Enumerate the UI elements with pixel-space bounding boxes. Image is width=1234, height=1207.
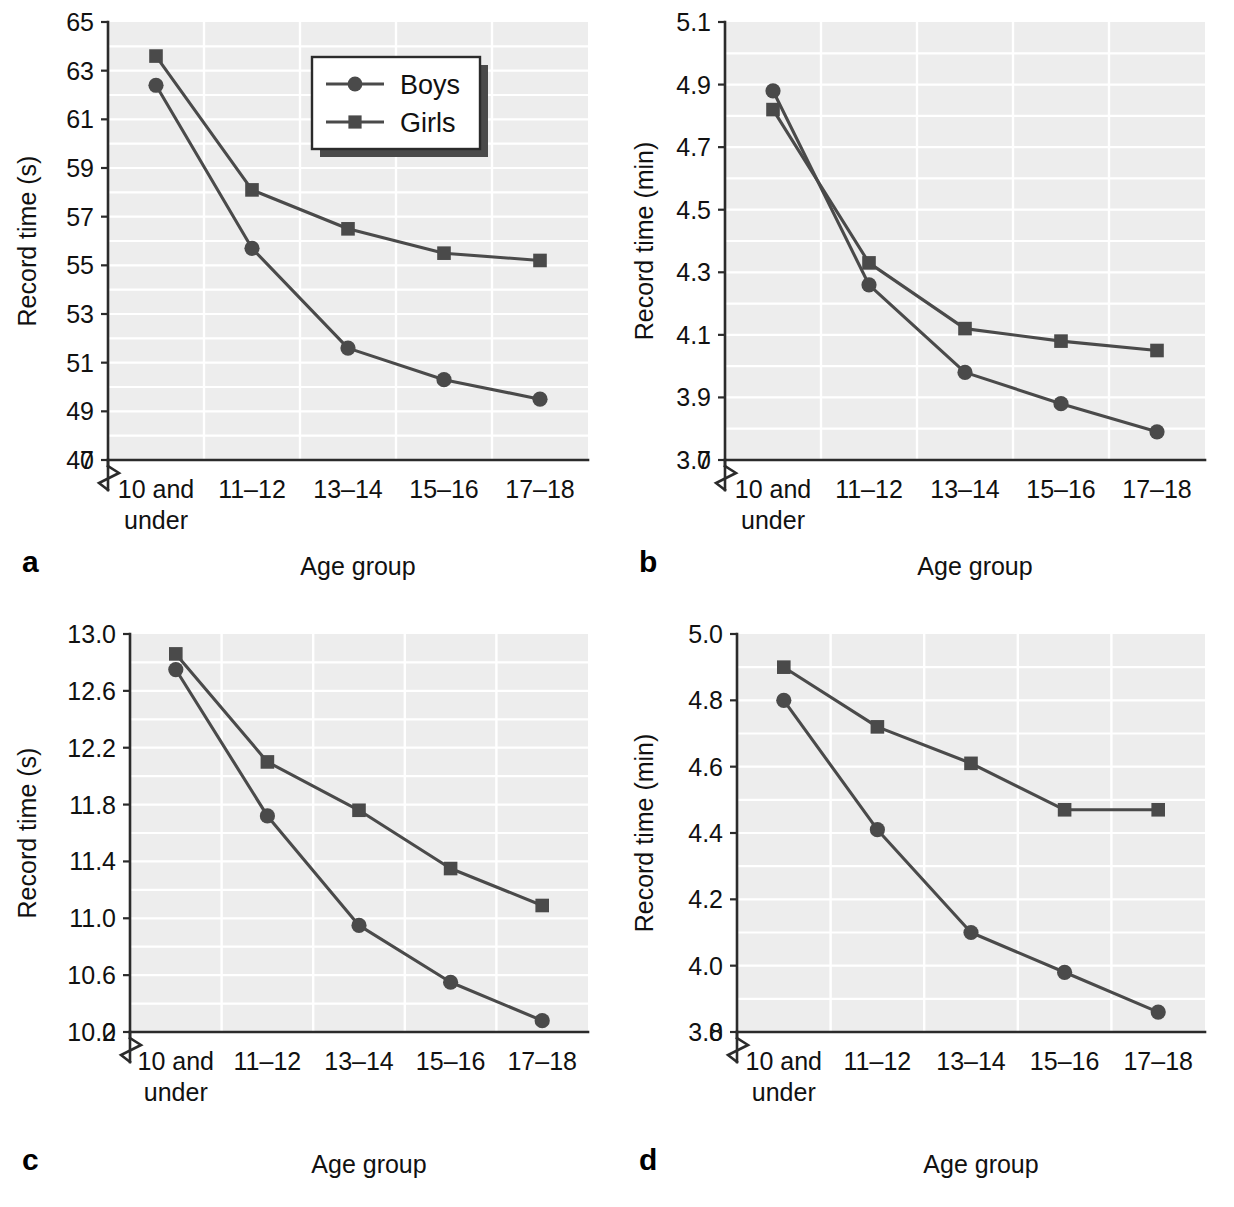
y-origin-label: 0 [102,1018,116,1046]
x-ticks-a: 10 andunder11–1213–1415–1617–18 [118,475,575,534]
data-point-boys [351,918,366,933]
y-tick-label: 4.2 [688,885,723,913]
x-tick-label: 17–18 [1122,475,1192,503]
data-point-boys [870,822,885,837]
data-point-girls [1058,803,1072,817]
data-point-boys [957,365,972,380]
y-tick-label: 13.0 [67,620,116,648]
x-axis-title-a: Age group [300,552,415,580]
x-tick-label: 10 and [138,1047,214,1075]
data-point-girls [444,862,458,876]
x-ticks-d: 10 andunder11–1213–1415–1617–18 [746,1047,1193,1106]
x-tick-label: 17–18 [1123,1047,1193,1075]
x-tick-label: 17–18 [505,475,575,503]
y-tick-label: 10.6 [67,961,116,989]
x-tick-label: 15–16 [416,1047,486,1075]
y-tick-label: 4.8 [688,686,723,714]
x-tick-label: 15–16 [1026,475,1096,503]
data-point-girls [1151,803,1165,817]
data-point-girls [777,660,791,674]
x-tick-label: 13–14 [930,475,1000,503]
y-tick-label: 4.0 [688,952,723,980]
y-tick-label: 4.5 [676,196,711,224]
panel-letter-b: b [639,545,657,578]
y-tick-label: 12.2 [67,734,116,762]
y-ticks-b: 3.73.94.14.34.54.74.95.10 [676,8,725,474]
data-point-girls [535,899,549,913]
x-axis-title-c: Age group [311,1150,426,1178]
panel-letter-a: a [22,545,39,578]
x-tick-label: 13–14 [313,475,383,503]
x-tick-label: under [124,506,188,534]
data-point-boys [532,392,547,407]
data-point-boys [963,925,978,940]
x-tick-label: 11–12 [844,1047,912,1075]
legend-a: BoysGirls [312,57,488,157]
panel-letter-c: c [22,1143,39,1176]
y-tick-label: 5.1 [676,8,711,36]
y-tick-label: 4.6 [688,753,723,781]
y-tick-label: 4.7 [676,133,711,161]
x-tick-label: under [144,1078,208,1106]
y-tick-label: 11.8 [69,791,116,819]
data-point-girls [766,103,780,117]
x-tick-label: 10 and [735,475,811,503]
chart-panel-a: 47495153555759616365010 andunder11–1213–… [0,0,617,603]
y-tick-label: 49 [66,397,94,425]
panel-letter-d: d [639,1143,657,1176]
x-tick-label: 13–14 [936,1047,1006,1075]
chart-svg-c: 10.210.611.011.411.812.212.613.0010 andu… [0,604,617,1207]
y-tick-label: 55 [66,251,94,279]
data-point-boys [1151,1005,1166,1020]
data-point-girls [533,254,547,268]
data-point-boys [1057,965,1072,980]
y-tick-label: 4.9 [676,71,711,99]
x-tick-label: 10 and [118,475,194,503]
y-axis-title-a: Record time (s) [13,156,41,327]
data-point-girls [1150,344,1164,358]
data-point-girls [261,755,275,769]
x-tick-label: 11–12 [234,1047,302,1075]
chart-panel-b: 3.73.94.14.34.54.74.95.1010 andunder11–1… [617,0,1234,603]
data-point-girls [245,183,259,197]
data-point-girls [352,803,366,817]
chart-svg-d: 3.84.04.24.44.64.85.0010 andunder11–1213… [617,604,1234,1207]
figure-sheet: 47495153555759616365010 andunder11–1213–… [0,0,1234,1207]
y-tick-label: 4.3 [676,258,711,286]
x-tick-label: 11–12 [835,475,903,503]
data-point-boys [436,372,451,387]
y-tick-label: 65 [66,8,94,36]
x-ticks-b: 10 andunder11–1213–1415–1617–18 [735,475,1192,534]
y-tick-label: 3.9 [676,383,711,411]
x-tick-label: 10 and [746,1047,822,1075]
data-point-boys [776,693,791,708]
y-origin-label: 0 [697,446,711,474]
y-axis-title-c: Record time (s) [13,748,41,919]
data-point-girls [871,720,885,734]
y-axis-title-b: Record time (min) [630,142,658,341]
data-point-boys [168,662,183,677]
x-tick-label: under [752,1078,816,1106]
y-tick-label: 59 [66,154,94,182]
x-axis-title-d: Age group [923,1150,1038,1178]
data-point-boys [244,241,259,256]
x-tick-label: 17–18 [507,1047,577,1075]
x-tick-label: under [741,506,805,534]
data-point-boys [1149,424,1164,439]
data-point-girls [1054,334,1068,348]
legend-circle-marker-icon [348,77,363,92]
chart-svg-b: 3.73.94.14.34.54.74.95.1010 andunder11–1… [617,0,1234,603]
legend-square-marker-icon [348,115,361,128]
chart-panel-d: 3.84.04.24.44.64.85.0010 andunder11–1213… [617,604,1234,1207]
data-point-boys [148,78,163,93]
x-tick-label: 13–14 [324,1047,394,1075]
y-tick-label: 61 [66,105,94,133]
y-ticks-d: 3.84.04.24.44.64.85.00 [688,620,737,1046]
legend-label-girls: Girls [400,108,456,138]
y-tick-label: 5.0 [688,620,723,648]
data-point-girls [437,246,451,260]
y-tick-label: 4.4 [688,819,723,847]
data-point-boys [861,277,876,292]
x-ticks-c: 10 andunder11–1213–1415–1617–18 [138,1047,577,1106]
data-point-girls [169,647,183,661]
